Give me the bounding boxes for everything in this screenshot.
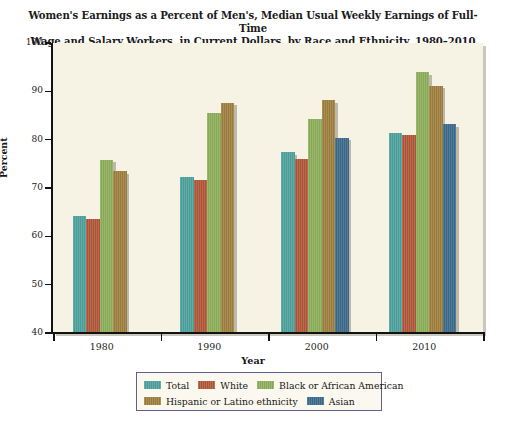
y-axis-tick	[45, 332, 51, 333]
bar-fill	[221, 103, 235, 333]
y-axis-tick	[45, 187, 51, 188]
chart-figure: Women's Earnings as a Percent of Men's, …	[0, 0, 506, 422]
bar-fill	[335, 138, 349, 333]
y-axis-tick	[45, 91, 51, 92]
bar	[295, 159, 309, 333]
legend-swatch-black-or-african-american	[257, 381, 274, 390]
plot-area	[53, 43, 483, 333]
x-axis-tick	[161, 334, 163, 341]
bar-fill	[308, 119, 322, 333]
bar	[194, 180, 208, 333]
bar	[429, 86, 443, 333]
legend-item-asian[interactable]: Asian	[307, 396, 355, 407]
y-axis-line	[51, 43, 53, 334]
legend-row-2: Hispanic or Latino ethnicity Asian	[144, 393, 374, 409]
bar-fill	[180, 177, 194, 333]
chart-title-line-1: Women's Earnings as a Percent of Men's, …	[18, 9, 488, 35]
bar-shadow	[127, 174, 130, 333]
x-axis-tick-label: 2000	[287, 341, 347, 352]
bar-fill	[113, 171, 127, 333]
bar-shadow	[456, 127, 459, 333]
bar-fill	[207, 113, 221, 333]
legend-label-white: White	[220, 380, 248, 391]
bar-fill	[194, 180, 208, 333]
y-axis-tick	[45, 139, 51, 140]
legend-item-white[interactable]: White	[198, 380, 248, 391]
x-axis-title: Year	[0, 355, 506, 366]
bar	[221, 103, 235, 333]
legend-label-asian: Asian	[329, 396, 355, 407]
bar	[100, 160, 114, 333]
bar	[443, 124, 457, 333]
bar-fill	[322, 100, 336, 333]
bar-fill	[416, 72, 430, 333]
y-axis-tick	[45, 42, 51, 43]
x-axis-tick	[483, 334, 485, 341]
legend-swatch-white	[198, 381, 215, 390]
bar-shadow	[349, 140, 352, 333]
bar	[113, 171, 127, 333]
x-axis-tick	[53, 334, 55, 341]
y-axis-tick	[45, 236, 51, 237]
bar-fill	[281, 152, 295, 333]
y-axis-tick	[45, 284, 51, 285]
x-axis-tick-label: 2010	[394, 341, 454, 352]
y-axis-tick-label: 40	[0, 327, 43, 337]
legend-item-black-or-african-american[interactable]: Black or African American	[257, 380, 403, 391]
legend-label-hispanic-or-latino-ethnicity: Hispanic or Latino ethnicity	[166, 396, 298, 407]
y-axis-tick-label: 50	[0, 279, 43, 289]
bar-fill	[389, 133, 403, 333]
bar-fill	[429, 86, 443, 333]
y-axis-tick-label: 100	[0, 37, 43, 47]
y-axis-tick-label: 60	[0, 230, 43, 240]
bar-fill	[443, 124, 457, 333]
x-axis-tick-label: 1980	[72, 341, 132, 352]
bar-fill	[86, 219, 100, 333]
bar-fill	[402, 135, 416, 333]
legend-swatch-asian	[307, 397, 324, 406]
legend-item-hispanic-or-latino-ethnicity[interactable]: Hispanic or Latino ethnicity	[144, 396, 298, 407]
x-axis-tick	[268, 334, 270, 341]
bar	[308, 119, 322, 333]
bar-shadow	[234, 105, 237, 333]
bar	[207, 113, 221, 333]
x-axis-tick-label: 1990	[179, 341, 239, 352]
bar-fill	[295, 159, 309, 333]
bar	[389, 133, 403, 333]
legend-swatch-total	[144, 381, 161, 390]
y-axis-tick-label: 90	[0, 85, 43, 95]
y-axis-title: Percent	[0, 137, 9, 178]
bar	[180, 177, 194, 333]
bar-fill	[73, 216, 87, 333]
bar	[86, 219, 100, 333]
bar-fill	[100, 160, 114, 333]
bar	[335, 138, 349, 333]
legend-swatch-hispanic-or-latino-ethnicity	[144, 397, 161, 406]
legend-label-total: Total	[166, 380, 189, 391]
x-axis-tick	[376, 334, 378, 341]
legend-row-1: Total White Black or African American	[144, 377, 374, 393]
bar	[281, 152, 295, 333]
legend-label-black-or-african-american: Black or African American	[279, 380, 403, 391]
y-axis-tick-label: 70	[0, 182, 43, 192]
chart-legend: Total White Black or African American Hi…	[136, 372, 382, 411]
bar	[416, 72, 430, 333]
bar	[73, 216, 87, 333]
bar	[322, 100, 336, 333]
bar	[402, 135, 416, 333]
legend-item-total[interactable]: Total	[144, 380, 189, 391]
